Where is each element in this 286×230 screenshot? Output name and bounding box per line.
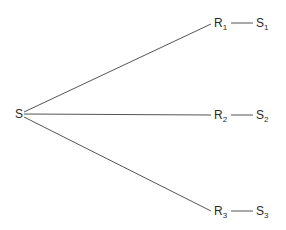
node-r2-label: R — [214, 108, 223, 122]
edge-s-r1 — [24, 24, 211, 112]
node-r1-sub: 1 — [223, 23, 227, 32]
node-r2: R2 — [214, 109, 227, 121]
leaf-s3-label: S — [256, 204, 264, 218]
leaf-s1-label: S — [256, 16, 264, 30]
leaf-s2-label: S — [256, 108, 264, 122]
node-r2-sub: 2 — [223, 115, 227, 124]
leaf-s2-sub: 2 — [264, 115, 268, 124]
leaf-s2: S2 — [256, 109, 268, 121]
connector-lines — [0, 0, 286, 230]
root-node-s: S — [15, 108, 23, 120]
edge-s-r2 — [24, 114, 211, 115]
leaf-s1: S1 — [256, 17, 268, 29]
leaf-s3-sub: 3 — [264, 211, 268, 220]
leaf-s3: S3 — [256, 205, 268, 217]
node-r3-label: R — [214, 204, 223, 218]
edge-s-r3 — [24, 117, 211, 211]
leaf-s1-sub: 1 — [264, 23, 268, 32]
node-r3-sub: 3 — [223, 211, 227, 220]
node-r1: R1 — [214, 17, 227, 29]
root-label: S — [15, 107, 23, 121]
tree-diagram: S R1 S1 R2 S2 R3 S3 — [0, 0, 286, 230]
node-r1-label: R — [214, 16, 223, 30]
node-r3: R3 — [214, 205, 227, 217]
